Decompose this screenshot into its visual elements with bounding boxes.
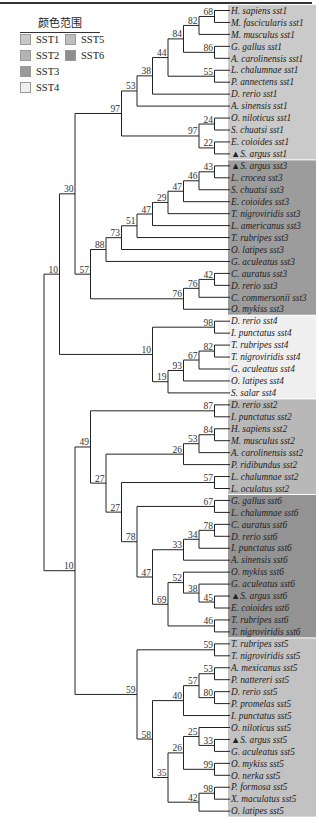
bootstrap-value: 10 [64,561,74,571]
bootstrap-value: 10 [142,345,152,355]
bootstrap-value: 26 [173,743,183,753]
bootstrap-value: 80 [204,688,214,698]
bootstrap-value: 98 [204,784,214,794]
bootstrap-value: 45 [204,593,214,603]
leaf-label: I. punctatus sst6 [230,543,292,553]
leaf-label: E. coioides sst1 [230,137,289,147]
leaf-label: O. mykiss sst6 [231,567,284,577]
bootstrap-value: 19 [157,372,167,382]
bootstrap-value: 47 [142,205,152,215]
bootstrap-value: 69 [157,595,167,605]
leaf-label: I. punctatus sst4 [230,328,292,338]
leaf-label: D. rerio sst3 [230,281,278,291]
bootstrap-value: 86 [204,43,214,53]
leaf-label: L. americanus sst3 [230,221,301,231]
leaf-label: D. rerio sst4 [230,316,278,326]
leaf-label: L. oculatus sst2 [230,484,289,494]
leaf-label: O. latipes sst4 [231,376,284,386]
leaf-label: P. nattereri sst5 [230,675,289,685]
bootstrap-value: 68 [204,7,214,17]
bootstrap-value: 44 [157,48,167,58]
bootstrap-value: 57 [80,265,90,275]
leaf-label: X. maculatus sst5 [230,794,297,804]
leaf-label: P. ridibundus sst2 [230,460,298,470]
leaf-label: ▲S. argus sst5 [231,735,287,745]
bootstrap-value: 97 [188,126,198,136]
bootstrap-value: 93 [173,361,183,371]
leaf-label: D. rerio sst5 [230,687,278,697]
bootstrap-value: 46 [188,171,198,181]
bootstrap-value: 51 [126,216,136,226]
leaf-label: G. aculeatus sst3 [231,257,295,267]
bootstrap-value: 49 [80,437,90,447]
leaf-label: G. gallus sst1 [231,42,282,52]
leaf-label: L. chalumnae sst2 [230,472,299,482]
leaf-label: E. coioides sst6 [230,603,289,613]
leaf-label: G. aculeatus sst5 [231,747,295,757]
leaf-label: C. auratus sst6 [231,520,287,530]
bootstrap-value: 27 [111,503,121,513]
leaf-label: G. gallus sst6 [231,496,282,506]
bootstrap-value: 55 [204,67,214,77]
bootstrap-value: 73 [111,228,121,238]
leaf-label: M. musculus sst1 [230,30,295,40]
leaf-label: ▲S. argus sst1 [231,149,287,159]
bootstrap-value: 59 [126,685,136,695]
leaf-label: O. latipes sst3 [231,245,284,255]
leaf-label: T. rubripes sst3 [231,233,289,243]
bootstrap-value: 88 [95,240,105,250]
bootstrap-value: 42 [188,793,198,803]
bootstrap-value: 82 [204,342,214,352]
leaf-label: M. fascicularis sst1 [230,18,304,28]
bootstrap-value: 34 [188,530,198,540]
leaf-label: G. aculeatus sst4 [231,364,295,374]
bootstrap-value: 84 [204,425,214,435]
leaf-label: L. chalumnae sst6 [230,508,299,518]
leaf-label: D. rerio sst2 [230,400,278,410]
bootstrap-value: 67 [188,351,198,361]
leaf-label: H. sapiens sst1 [230,6,287,16]
leaf-label: L. crocea sst3 [230,173,283,183]
bootstrap-value: 57 [204,473,214,483]
bootstrap-value: 42 [204,270,214,280]
bootstrap-value: 52 [173,573,183,583]
leaf-label: T. rubripes sst6 [231,615,289,625]
bootstrap-value: 29 [157,193,167,203]
bootstrap-value: 38 [142,66,152,76]
bootstrap-value: 98 [204,318,214,328]
bootstrap-value: 87 [204,401,214,411]
leaf-label: O. mykiss sst5 [231,759,284,769]
leaf-label: T. rubripes sst5 [231,639,289,649]
bootstrap-value: 84 [173,29,183,39]
leaf-label: O. nerka sst5 [231,771,281,781]
bootstrap-value: 40 [173,691,183,701]
leaf-label: ▲S. argus sst3 [231,161,287,171]
leaf-label: G. aculeatus sst6 [231,579,295,589]
leaf-label: I. punctatus sst2 [230,412,292,422]
bootstrap-value: 25 [188,727,198,737]
bootstrap-value: 97 [111,104,121,114]
bootstrap-value: 78 [204,521,214,531]
bootstrap-value: 33 [173,540,183,550]
leaf-label: D. rerio sst6 [230,532,278,542]
leaf-label: ▲S. argus sst6 [231,591,287,601]
bootstrap-value: 53 [204,664,214,674]
leaf-label: O. mykiss sst3 [231,304,284,314]
leaf-label: P. promelas sst5 [230,699,292,709]
leaf-label: H. sapiens sst2 [230,424,287,434]
leaf-label: P. formosa sst5 [230,782,288,792]
leaf-label: T. nigroviridis sst5 [231,651,301,661]
bootstrap-value: 67 [204,497,214,507]
bootstrap-value: 38 [188,584,198,594]
leaf-label: T. nigroviridis sst4 [231,352,301,362]
leaf-label: S. salar sst4 [231,388,277,398]
bootstrap-value: 10 [49,265,59,275]
bootstrap-value: 53 [188,434,198,444]
leaf-label: T. nigroviridis sst6 [231,627,301,637]
bootstrap-value: 46 [204,616,214,626]
bootstrap-value: 27 [95,474,105,484]
bootstrap-value: 22 [204,138,214,148]
leaf-label: A. carolinensis sst1 [230,54,303,64]
leaf-label: O. niloticus sst5 [231,723,292,733]
bootstrap-value: 58 [142,730,152,740]
